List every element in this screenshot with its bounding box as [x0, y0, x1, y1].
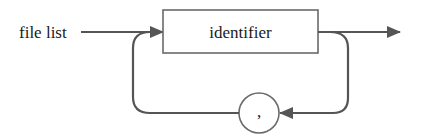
identifier-label: identifier — [209, 23, 272, 42]
comma-node: , — [239, 93, 279, 133]
identifier-node: identifier — [163, 10, 318, 53]
comma-label: , — [257, 102, 261, 121]
rule-name-label: file list — [19, 23, 67, 42]
syntax-diagram: file list identifier , — [0, 0, 429, 138]
